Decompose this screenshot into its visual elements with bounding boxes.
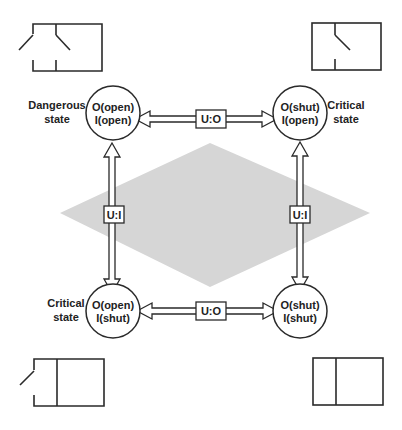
state-bottom-left-line1: O(open) <box>92 299 134 311</box>
side-label-top-left-1: Dangerous <box>28 99 85 111</box>
state-bottom-right-line2: I(shut) <box>283 312 317 324</box>
side-label-bottom-left-1: Critical <box>47 297 84 309</box>
transition-label-right: U:I <box>293 209 308 221</box>
transition-label-top: U:O <box>201 113 222 125</box>
state-bottom-right-line1: O(shut) <box>280 299 319 311</box>
state-top-left-line1: O(open) <box>92 101 134 113</box>
state-circle-top-right <box>273 86 327 140</box>
switch-icon-bottom-right <box>313 358 383 405</box>
state-circle-bottom-left <box>86 284 140 338</box>
state-circle-top-left <box>86 86 140 140</box>
switch-icon-bottom-left <box>20 359 104 406</box>
side-label-top-right-1: Critical <box>327 99 364 111</box>
switch-icon-top-left <box>19 24 102 71</box>
side-label-bottom-left-2: state <box>53 311 79 323</box>
switch-icon-top-right <box>312 23 381 70</box>
transition-label-left: U:I <box>107 209 122 221</box>
state-circle-bottom-right <box>273 284 327 338</box>
side-label-top-right-2: state <box>333 113 359 125</box>
side-label-top-left-2: state <box>44 113 70 125</box>
transition-label-bottom: U:O <box>201 305 222 317</box>
state-bottom-left-line2: I(shut) <box>96 312 130 324</box>
state-top-right-line1: O(shut) <box>280 101 319 113</box>
state-top-right-line2: I(open) <box>282 114 319 126</box>
state-top-left-line2: I(open) <box>95 114 132 126</box>
state-diagram: U:O U:O U:I U:I O(open) I(open) O(shut) … <box>0 0 402 430</box>
